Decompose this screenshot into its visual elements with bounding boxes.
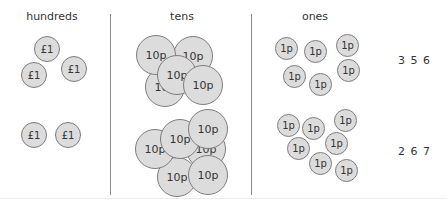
heading-tens: tens <box>170 10 194 23</box>
coin-ten: 10p <box>188 109 228 149</box>
row-total: 2 6 7 <box>398 145 431 158</box>
coin-one: 1p <box>302 117 325 140</box>
coin-pound: £1 <box>21 62 47 88</box>
coin-one: 1p <box>325 132 348 155</box>
coin-one: 1p <box>304 40 327 63</box>
coin-one: 1p <box>336 34 359 57</box>
coin-one: 1p <box>283 65 306 88</box>
divider-tens-ones <box>251 14 252 195</box>
heading-hundreds: hundreds <box>26 10 78 23</box>
divider-hundreds-tens <box>110 14 111 195</box>
coin-pound: £1 <box>34 36 60 62</box>
coin-ten: 10p <box>188 155 228 195</box>
row-total: 3 5 6 <box>398 54 431 67</box>
coin-one: 1p <box>309 73 332 96</box>
coin-one: 1p <box>309 152 332 175</box>
coin-one: 1p <box>337 59 360 82</box>
coin-one: 1p <box>287 137 310 160</box>
coin-one: 1p <box>334 109 357 132</box>
coin-ten: 10p <box>183 65 223 105</box>
coin-pound: £1 <box>61 56 87 82</box>
coin-one: 1p <box>277 114 300 137</box>
coin-one: 1p <box>275 37 298 60</box>
bottom-rule <box>0 198 447 199</box>
heading-ones: ones <box>302 10 328 23</box>
coin-one: 1p <box>335 159 358 182</box>
coin-pound: £1 <box>21 122 47 148</box>
coin-pound: £1 <box>55 122 81 148</box>
